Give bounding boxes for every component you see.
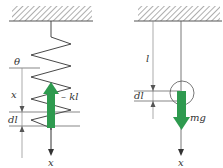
ceiling-hatch-left — [12, 6, 92, 21]
label-length: l — [146, 53, 149, 64]
length-arrowhead — [151, 85, 156, 91]
spring-diagram: θ x dl – kl x — [8, 6, 93, 168]
label-x-displacement: x — [11, 89, 17, 100]
label-theta: θ — [14, 56, 20, 67]
ceiling-hatch-right — [138, 6, 220, 21]
label-gravity-force: mg — [190, 112, 206, 123]
label-x-axis-left: x — [48, 157, 54, 168]
diagram-canvas: θ x dl – kl x l dl mg x — [0, 0, 223, 168]
x-dimension-arrowhead — [20, 106, 25, 112]
label-dl-right: dl — [134, 90, 144, 101]
dl-arrowhead — [20, 126, 25, 132]
gravity-force-arrow — [173, 91, 190, 130]
x-axis-left-arrowhead — [48, 149, 54, 156]
label-spring-force: – kl — [61, 91, 78, 102]
x-axis-right-arrowhead — [178, 149, 184, 156]
pendulum-diagram: l dl mg x — [134, 6, 222, 168]
dl-arrowhead-right — [151, 101, 156, 107]
spring-force-arrow — [43, 82, 59, 128]
label-x-axis-right: x — [178, 157, 184, 168]
label-dl-left: dl — [8, 114, 18, 125]
